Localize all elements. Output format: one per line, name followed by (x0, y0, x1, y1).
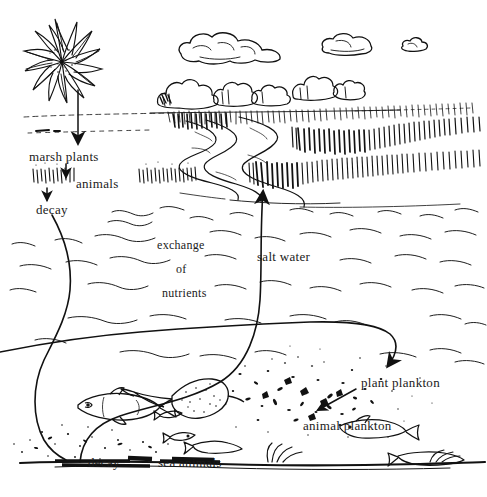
curve-decay-down-to-seafloor (35, 215, 70, 460)
tree-line (158, 77, 366, 109)
label-decay-marsh: decay (36, 203, 68, 216)
cloud-small (402, 38, 428, 52)
cloud-medium (322, 34, 372, 56)
small-fish-3 (184, 441, 242, 454)
salt-water-waves (10, 207, 486, 364)
label-animal-plankton: animal plankton (303, 419, 392, 432)
label-nutrients: nutrients (162, 287, 207, 299)
cloud-large (179, 33, 280, 64)
label-exchange: exchange (157, 239, 205, 251)
label-decay-sea: decay (88, 456, 120, 469)
label-marsh-plants: marsh plants (29, 150, 99, 163)
label-animals: animals (76, 177, 119, 190)
food-web-diagram: marsh plants animals decay exchange of n… (0, 0, 487, 497)
small-fish-2 (163, 433, 195, 443)
arrow-chain-top (47, 90, 78, 200)
label-salt-water: salt water (257, 250, 310, 263)
label-sea-animals: sea animals (158, 456, 222, 469)
label-of: of (176, 263, 187, 275)
label-plant-plankton: plant plankton (361, 376, 440, 389)
sun-icon (24, 19, 102, 103)
diagram-artwork (0, 0, 487, 497)
